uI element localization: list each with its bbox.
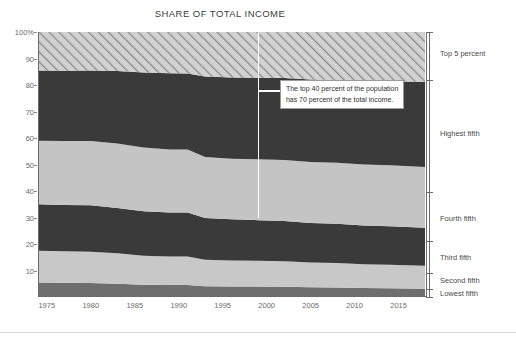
y-axis-tick-label: 100%	[15, 28, 34, 37]
y-axis-tick-mark	[34, 218, 37, 219]
x-axis-tick-label: 2010	[346, 301, 363, 310]
y-axis-tick-label: 50	[26, 160, 34, 169]
chart-title: SHARE OF TOTAL INCOME	[0, 8, 440, 19]
annotation-marker-line	[258, 32, 260, 218]
x-axis: 197519801985199019952000200520102015	[0, 301, 516, 315]
category-bracket-tick	[426, 273, 433, 274]
y-axis-tick-mark	[34, 191, 37, 192]
category-bracket-tick	[426, 241, 433, 242]
y-axis-tick-label: 60	[26, 134, 34, 143]
y-axis-tick-mark	[34, 112, 37, 113]
page-divider	[0, 332, 516, 333]
y-axis-tick-label: 10	[26, 266, 34, 275]
x-axis-tick-label: 1975	[38, 301, 55, 310]
category-bracket-tick	[426, 289, 433, 290]
x-axis-line	[38, 296, 426, 297]
y-axis-tick-mark	[34, 244, 37, 245]
category-bracket-tick	[426, 32, 433, 33]
y-axis-tick-label: 30	[26, 213, 34, 222]
category-label-lowest-fifth: Lowest fifth	[440, 288, 478, 297]
y-axis-tick-mark	[34, 165, 37, 166]
annotation-callout: The top 40 percent of the population has…	[280, 80, 404, 109]
category-label-second-fifth: Second fifth	[440, 276, 480, 285]
annotation-leader-line	[258, 90, 282, 92]
y-axis-tick-mark	[34, 271, 37, 272]
x-axis-tick-label: 1980	[82, 301, 99, 310]
category-bracket-tick	[426, 192, 433, 193]
stacked-area-bands	[38, 32, 425, 297]
y-axis-tick-label: 70	[26, 107, 34, 116]
y-axis-tick-label: 80	[26, 81, 34, 90]
x-axis-tick-label: 1995	[214, 301, 231, 310]
y-axis-tick-label: 20	[26, 240, 34, 249]
y-axis: 100%908070605040302010	[0, 32, 34, 297]
y-axis-tick-mark	[34, 32, 37, 33]
y-axis-tick-mark	[34, 138, 37, 139]
category-label-fourth-fifth: Fourth fifth	[440, 213, 476, 222]
chart-page: SHARE OF TOTAL INCOME 100%90807060504030…	[0, 0, 516, 341]
category-label-third-fifth: Third fifth	[440, 253, 471, 262]
y-axis-tick-mark	[34, 59, 37, 60]
y-axis-tick-label: 40	[26, 187, 34, 196]
category-bracket-tick	[426, 297, 433, 298]
x-axis-tick-label: 2005	[302, 301, 319, 310]
x-axis-tick-label: 2015	[390, 301, 407, 310]
x-axis-tick-label: 2000	[258, 301, 275, 310]
category-bracket-tick	[426, 80, 433, 81]
category-label-top-5-percent: Top 5 percent	[440, 49, 485, 58]
x-axis-tick-label: 1990	[170, 301, 187, 310]
x-axis-tick-label: 1985	[126, 301, 143, 310]
category-bracket	[429, 32, 430, 297]
plot-area	[38, 32, 425, 297]
y-axis-tick-mark	[34, 85, 37, 86]
category-label-highest-fifth: Highest fifth	[440, 128, 480, 137]
y-axis-tick-label: 90	[26, 54, 34, 63]
